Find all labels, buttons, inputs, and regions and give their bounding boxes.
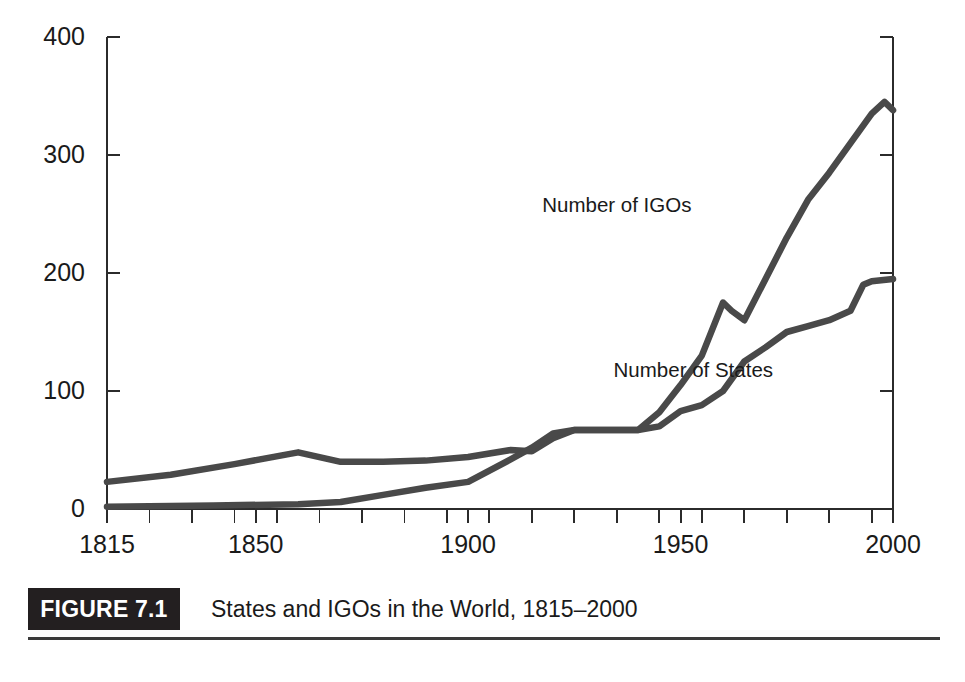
figure-caption-text: States and IGOs in the World, 1815–2000: [211, 588, 638, 630]
chart-series-annotations: Number of IGOsNumber of States: [542, 193, 773, 381]
chart-axes: [107, 37, 893, 509]
series-label: Number of IGOs: [542, 193, 691, 216]
x-tick-label: 1950: [653, 530, 709, 558]
x-tick-label: 2000: [865, 530, 921, 558]
series-line: [107, 279, 893, 507]
chart-series-lines: [107, 102, 893, 507]
x-axis-tick-labels: 18151850190019502000: [79, 530, 921, 558]
chart-area: 0100200300400 18151850190019502000 Numbe…: [0, 0, 965, 575]
x-tick-label: 1900: [440, 530, 496, 558]
y-tick-label: 100: [43, 376, 85, 404]
figure-container: 0100200300400 18151850190019502000 Numbe…: [0, 0, 965, 682]
series-label: Number of States: [614, 358, 774, 381]
y-tick-label: 200: [43, 258, 85, 286]
y-tick-label: 400: [43, 22, 85, 50]
figure-number-badge: FIGURE 7.1: [28, 588, 180, 630]
y-tick-label: 0: [71, 494, 85, 522]
y-axis-tick-labels: 0100200300400: [43, 22, 85, 522]
caption-divider-rule: [28, 637, 940, 640]
figure-caption-bar: FIGURE 7.1 States and IGOs in the World,…: [28, 588, 938, 630]
series-line: [107, 102, 893, 482]
x-tick-label: 1815: [79, 530, 135, 558]
y-tick-label: 300: [43, 140, 85, 168]
x-tick-label: 1850: [228, 530, 284, 558]
line-chart: 0100200300400 18151850190019502000 Numbe…: [0, 0, 965, 575]
